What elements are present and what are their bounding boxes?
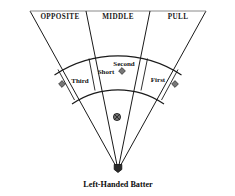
zone-label-opposite: OPPOSITE [40, 13, 79, 21]
fielder-label-second: Second [113, 60, 134, 68]
fielder-label-short: Short [98, 68, 115, 76]
first-base-marker [172, 81, 179, 88]
zone-label-middle: MIDDLE [102, 13, 134, 21]
baseball-zone-diagram: OPPOSITE MIDDLE PULL Third Short Second … [0, 0, 235, 196]
second-base-marker [119, 68, 126, 75]
pitchers-mound-marker [113, 113, 120, 120]
home-plate-marker [114, 165, 122, 173]
zone-label-pull: PULL [168, 13, 189, 21]
zone-divider-group [86, 11, 150, 170]
field-outline-group [30, 11, 206, 170]
fielder-label-third: Third [71, 77, 89, 85]
infield-inner-arc [72, 90, 164, 104]
field-svg [0, 0, 235, 196]
infield-separator-right-inner [141, 59, 148, 91]
diagram-caption: Left-Handed Batter [83, 180, 152, 189]
fielder-label-first: First [151, 76, 165, 84]
infield-separator-left-inner [89, 59, 95, 91]
